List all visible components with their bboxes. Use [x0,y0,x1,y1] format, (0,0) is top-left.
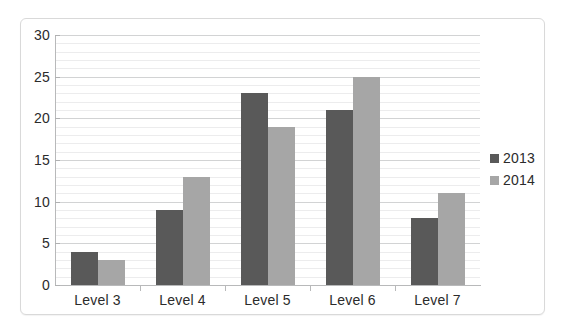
legend-item-2014[interactable]: 2014 [490,169,535,191]
bar-group [55,35,140,285]
legend-label-2013: 2013 [503,150,535,166]
plot-area [55,35,480,285]
y-tick-label: 30 [18,27,50,43]
bar-group [225,35,310,285]
y-tick-mark [55,77,60,78]
y-tick-label: 25 [18,69,50,85]
x-axis-separator [395,285,396,291]
bar-2014-level-6[interactable] [353,77,380,285]
legend-item-2013[interactable]: 2013 [490,147,535,169]
bar-group [310,35,395,285]
x-axis-separator [310,285,311,291]
bar-2014-level-7[interactable] [438,193,465,285]
y-tick-label: 0 [18,277,50,293]
bar-2014-level-5[interactable] [268,127,295,285]
x-tick-label: Level 7 [395,292,480,308]
x-axis-line [55,285,481,286]
bar-group [140,35,225,285]
bar-2013-level-3[interactable] [71,252,98,285]
legend-swatch-2013-icon [490,154,499,163]
bar-2013-level-7[interactable] [411,218,438,285]
y-tick-mark [55,202,60,203]
y-tick-mark [55,118,60,119]
y-tick-mark [55,243,60,244]
bar-2014-level-4[interactable] [183,177,210,285]
legend-swatch-2014-icon [490,176,499,185]
bar-2013-level-4[interactable] [156,210,183,285]
bar-2014-level-3[interactable] [98,260,125,285]
y-tick-label: 20 [18,110,50,126]
x-axis-separator [225,285,226,291]
y-tick-mark [55,35,60,36]
y-tick-label: 15 [18,152,50,168]
y-tick-label: 5 [18,235,50,251]
chart-legend: 2013 2014 [490,147,535,191]
x-axis-separator [140,285,141,291]
bar-2013-level-6[interactable] [326,110,353,285]
bar-2013-level-5[interactable] [241,93,268,285]
x-tick-label: Level 6 [310,292,395,308]
legend-label-2014: 2014 [503,172,535,188]
x-tick-label: Level 5 [225,292,310,308]
bar-group [395,35,480,285]
y-axis-tick-labels: 051015202530 [16,35,50,285]
y-tick-label: 10 [18,194,50,210]
y-tick-mark [55,285,60,286]
x-tick-label: Level 4 [140,292,225,308]
y-tick-mark [55,160,60,161]
x-tick-label: Level 3 [55,292,140,308]
